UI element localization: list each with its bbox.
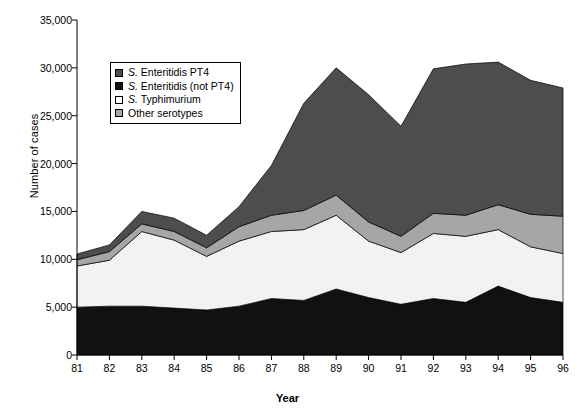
legend-swatch-icon <box>115 96 123 104</box>
legend-item[interactable]: Other serotypes <box>115 107 234 121</box>
x-tick-label: 93 <box>451 362 481 374</box>
x-tick-label: 91 <box>386 362 416 374</box>
chart-plot-area <box>0 0 575 418</box>
x-tick-label: 85 <box>192 362 222 374</box>
x-tick-label: 89 <box>321 362 351 374</box>
legend-item[interactable]: S. Typhimurium <box>115 93 234 107</box>
chart-legend: S. Enteritidis PT4S. Enteritidis (not PT… <box>110 62 241 124</box>
legend-item-label: S. Enteritidis (not PT4) <box>128 80 234 93</box>
legend-swatch-icon <box>115 82 123 90</box>
x-tick-label: 90 <box>354 362 384 374</box>
legend-item-label: Other serotypes <box>128 107 203 120</box>
x-tick-label: 84 <box>159 362 189 374</box>
legend-swatch-icon <box>115 109 123 117</box>
legend-swatch-icon <box>115 69 123 77</box>
x-tick-label: 88 <box>289 362 319 374</box>
x-tick-label: 95 <box>516 362 546 374</box>
x-tick-label: 81 <box>62 362 92 374</box>
x-tick-label: 82 <box>94 362 124 374</box>
legend-item-label: S. Typhimurium <box>128 93 201 106</box>
x-tick-label: 87 <box>256 362 286 374</box>
x-tick-label: 92 <box>418 362 448 374</box>
legend-item[interactable]: S. Enteritidis PT4 <box>115 66 234 80</box>
legend-item-label: S. Enteritidis PT4 <box>128 66 209 79</box>
x-tick-label: 96 <box>548 362 575 374</box>
x-axis-title: Year <box>0 392 575 404</box>
x-tick-label: 94 <box>483 362 513 374</box>
x-tick-label: 86 <box>224 362 254 374</box>
x-tick-label: 83 <box>127 362 157 374</box>
chart-container: Number of cases 05,00010,00015,00020,000… <box>0 0 575 418</box>
legend-item[interactable]: S. Enteritidis (not PT4) <box>115 80 234 94</box>
